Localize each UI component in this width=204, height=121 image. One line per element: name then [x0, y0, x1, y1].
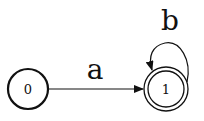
state-1: 1	[144, 67, 188, 111]
transition-1-to-1: b	[151, 4, 189, 82]
transition-0-to-1: a	[48, 53, 143, 89]
transition-label-a: a	[87, 53, 104, 86]
state-0-label: 0	[24, 82, 32, 97]
self-loop-arrow	[151, 43, 189, 82]
state-0: 0	[8, 69, 48, 109]
transition-label-b: b	[161, 4, 179, 37]
automaton-diagram: 0 1 a b	[0, 0, 204, 121]
state-1-label: 1	[162, 82, 170, 97]
